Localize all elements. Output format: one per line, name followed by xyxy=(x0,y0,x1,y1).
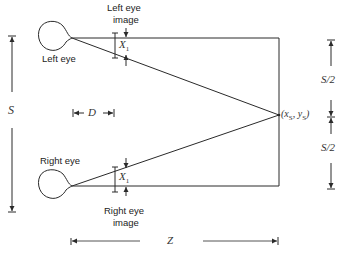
half-s-top-label: S/2 xyxy=(321,73,335,85)
x1-top-label: X1 xyxy=(119,38,129,53)
half-s-bottom-label: S/2 xyxy=(321,141,335,153)
diagram-lines xyxy=(0,0,341,258)
right-eye-label: Right eye xyxy=(40,155,80,166)
left-eye-image-label-line1: Left eye xyxy=(107,2,141,13)
z-dimension-label: Z xyxy=(167,234,173,246)
s-dimension-label: S xyxy=(8,103,14,118)
left-eye-image-label-line2: image xyxy=(113,14,139,25)
right-eye-image-label-line1: Right eye xyxy=(104,205,144,216)
right-eye-icon xyxy=(38,170,72,199)
d-dimension-label: D xyxy=(88,106,96,118)
stereo-vision-diagram: Left eye Right eye Left eye image Right … xyxy=(0,0,341,258)
convergence-point xyxy=(278,114,281,117)
convergence-point-label: (xS, yS) xyxy=(281,108,309,122)
left-eye-icon xyxy=(38,21,72,50)
x1-bottom-label: X1 xyxy=(119,170,129,185)
left-eye-label: Left eye xyxy=(42,53,76,64)
right-eye-image-label-line2: image xyxy=(113,217,139,228)
